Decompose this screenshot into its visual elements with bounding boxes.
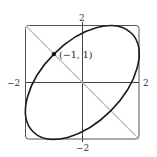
point-marker [52,52,56,56]
point-label: (−1, 1) [59,49,93,60]
x-max-label: 2 [143,78,149,88]
graph: (−1, 1) −2 2 2 −2 [0,0,157,157]
y-max-label: 2 [79,13,85,23]
y-min-label: −2 [76,143,89,153]
x-min-label: −2 [7,78,20,88]
